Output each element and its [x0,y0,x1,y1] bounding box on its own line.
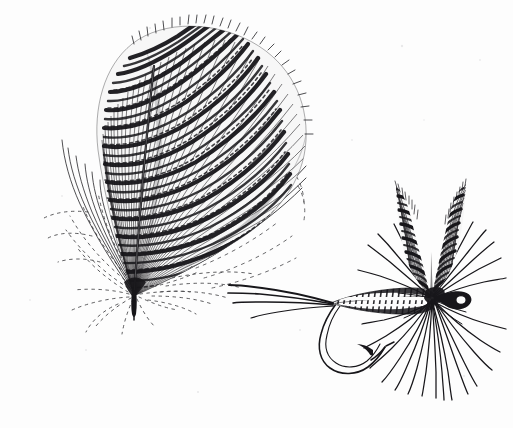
illustration-plate [0,0,513,428]
engraving-canvas [0,0,513,428]
